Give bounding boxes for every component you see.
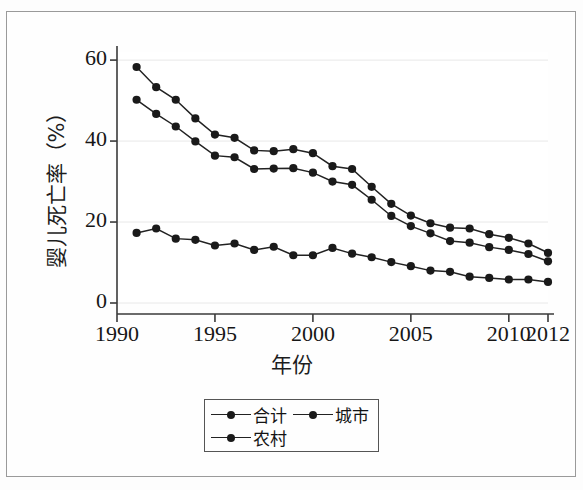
legend-row-secondary: 农村	[211, 426, 372, 449]
legend-label-urban: 城市	[335, 402, 369, 427]
legend-item-urban: 城市	[293, 402, 369, 427]
legend-label-total: 合计	[253, 402, 287, 427]
chart-figure: 婴儿死亡率（%） 年份 0204060 19901995200020052010…	[0, 0, 583, 490]
x-tick-label: 1995	[182, 321, 248, 347]
legend-line-marker-icon	[211, 432, 251, 444]
legend-item-total: 合计	[211, 402, 287, 427]
y-tick-label: 60	[55, 45, 107, 71]
y-axis-title: 婴儿死亡率（%）	[40, 70, 70, 300]
y-tick-label: 40	[55, 126, 107, 152]
x-tick-label: 2012	[515, 321, 581, 347]
x-tick-label: 2005	[378, 321, 444, 347]
legend-line-marker-icon	[293, 409, 333, 421]
x-axis-title: 年份	[0, 348, 583, 378]
legend-item-rural: 农村	[211, 425, 287, 450]
legend-label-rural: 农村	[253, 425, 287, 450]
legend-row-primary: 合计 城市	[211, 403, 372, 426]
chart-legend: 合计 城市 农村	[204, 399, 379, 452]
y-tick-label: 20	[55, 207, 107, 233]
x-tick-label: 1990	[84, 321, 150, 347]
y-tick-label: 0	[55, 288, 107, 314]
legend-line-marker-icon	[211, 409, 251, 421]
x-tick-label: 2000	[280, 321, 346, 347]
screenshot-page: 婴儿死亡率（%） 年份 0204060 19901995200020052010…	[0, 0, 583, 490]
